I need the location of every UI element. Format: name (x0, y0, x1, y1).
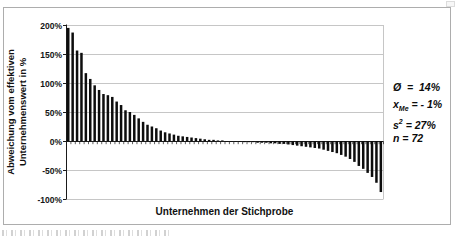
bar (327, 141, 330, 151)
x-axis-title: Unternehmen der Stichprobe (66, 206, 383, 217)
bar (120, 105, 123, 141)
bar (226, 141, 229, 142)
annotation-line: Ø = 14% (393, 79, 455, 96)
bar (217, 140, 220, 141)
bar (287, 141, 290, 144)
y-axis-title: Abweichung vom effektiven Unternehmenswe… (5, 25, 33, 199)
bar (173, 135, 176, 141)
bar (208, 140, 211, 141)
bar (353, 141, 356, 162)
bar (137, 118, 140, 141)
bar (296, 141, 299, 146)
bar (340, 141, 343, 155)
bar (239, 141, 242, 142)
bar (181, 136, 184, 141)
bar (133, 115, 136, 141)
bar (124, 110, 127, 141)
bar (80, 53, 83, 141)
annotation-line: xMe = - 1% (393, 96, 455, 113)
bar (195, 138, 198, 141)
bar (67, 28, 70, 141)
bar (186, 137, 189, 141)
bar (234, 141, 237, 142)
bar (252, 141, 255, 142)
bar (300, 141, 303, 146)
bar (371, 141, 374, 177)
bar (155, 128, 158, 141)
deviation-bar-chart (0, 0, 457, 237)
bar (129, 112, 132, 141)
bar (212, 140, 215, 141)
bar (111, 97, 114, 141)
bar (107, 95, 110, 141)
bar (265, 141, 268, 143)
bar (76, 51, 79, 141)
bar (164, 132, 167, 141)
bar (102, 94, 105, 141)
bar (270, 141, 273, 143)
clipped-caption-fragment (2, 230, 172, 236)
bar (190, 138, 193, 141)
bar (318, 141, 321, 149)
bar (349, 141, 352, 159)
y-axis-title-line2: Unternehmenswert in % (17, 25, 29, 199)
bar (248, 141, 251, 142)
bar (322, 141, 325, 150)
annotation-line: s2 = 27% (393, 113, 455, 130)
bar (151, 127, 154, 142)
bar (71, 33, 74, 141)
bar (85, 73, 88, 141)
bar (362, 141, 365, 169)
statistics-bar-chart-figure: 200%150%100%50%0%-50%-100% Abweichung vo… (0, 0, 457, 237)
y-axis-title-line1: Abweichung vom effektiven (5, 25, 17, 199)
bar (278, 141, 281, 144)
bar (243, 141, 246, 142)
statistics-annotation: Ø = 14%xMe = - 1%s2 = 27%n = 72 (393, 79, 455, 147)
bar (115, 102, 118, 141)
bar (305, 141, 308, 147)
bar (344, 141, 347, 157)
bar (366, 141, 369, 173)
bar (177, 136, 180, 141)
bar (375, 141, 378, 183)
bar (221, 140, 224, 141)
bar (283, 141, 286, 144)
bar (380, 141, 383, 192)
bar (309, 141, 312, 147)
bar (98, 90, 101, 141)
bar (261, 141, 264, 143)
bar (336, 141, 339, 153)
bar (314, 141, 317, 148)
bar (274, 141, 277, 143)
bar (168, 133, 171, 141)
bar (159, 131, 162, 141)
bar (146, 125, 149, 141)
bar (256, 141, 259, 143)
bar (230, 141, 233, 142)
bar (93, 85, 96, 141)
bar (89, 79, 92, 141)
bar (142, 122, 145, 141)
bar (331, 141, 334, 152)
annotation-line: n = 72 (393, 130, 455, 147)
bar (203, 139, 206, 141)
bar (292, 141, 295, 145)
bar (358, 141, 361, 166)
bar (199, 139, 202, 141)
